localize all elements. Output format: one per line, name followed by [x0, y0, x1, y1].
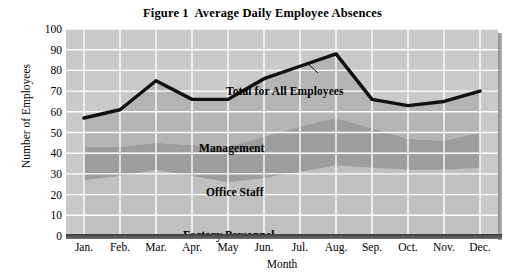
area-band-factory-personnel: [84, 166, 480, 236]
y-axis-tick: 0: [28, 231, 62, 243]
figure-container: Figure 1 Average Daily Employee Absences…: [0, 0, 525, 279]
y-axis-tick: 90: [28, 44, 62, 56]
x-axis-baseline: [66, 234, 502, 239]
y-axis-tick-labels: 1009080706050403020100: [28, 29, 62, 236]
series-label-total: Total for All Employees: [226, 85, 344, 97]
y-axis-tick: 10: [28, 210, 62, 222]
y-axis-tick: 50: [28, 127, 62, 139]
chart-title: Figure 1 Average Daily Employee Absences: [0, 6, 525, 21]
y-axis-tick: 30: [28, 168, 62, 180]
y-axis-tick: 60: [28, 106, 62, 118]
x-axis-title: Month: [66, 258, 498, 270]
y-axis-tick: 80: [28, 65, 62, 77]
y-axis-tick: 100: [28, 24, 62, 36]
y-axis-tick: 70: [28, 86, 62, 98]
plot-shadow-edge: [498, 33, 502, 240]
x-axis-tick-labels: Jan.Feb.Mar.Apr.MayJun.Jul.Aug.Sep.Oct.N…: [66, 241, 498, 257]
series-label-management: Management: [199, 142, 265, 154]
series-label-office: Office Staff: [206, 186, 264, 198]
y-axis-tick: 20: [28, 189, 62, 201]
plot-area: Total for All Employees Management Offic…: [66, 29, 498, 236]
stacked-area-plot: [66, 29, 498, 236]
y-axis-tick: 40: [28, 148, 62, 160]
x-axis-tick: Dec.: [457, 241, 503, 254]
